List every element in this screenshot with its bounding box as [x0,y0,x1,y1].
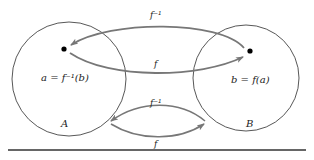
element-a-dot [61,46,66,51]
element-b-label: b = f(a) [231,74,270,85]
top-forward-label: f [153,59,159,69]
element-b-dot [247,48,252,53]
element-a-label: a = f⁻¹(b) [41,72,89,83]
bottom-forward-arrow [111,124,204,137]
inverse-function-diagram: f⁻¹ f a = f⁻¹(b) b = f(a) A B f⁻¹ f [0,0,314,160]
set-b-label: B [245,118,253,129]
set-a-label: A [60,118,68,129]
bottom-inverse-label: f⁻¹ [149,98,162,108]
bottom-forward-label: f [153,139,159,149]
top-inverse-label: f⁻¹ [149,10,162,20]
